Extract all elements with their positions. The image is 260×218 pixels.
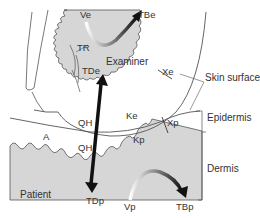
kp-label: Kp — [133, 134, 145, 145]
ke-label: Ke — [126, 110, 138, 121]
fingernail-outline — [26, 10, 48, 90]
vp-label: Vp — [124, 201, 136, 212]
finger-side-line — [32, 92, 44, 112]
skin-surface-leader — [180, 74, 204, 110]
patient-dermis-region — [10, 119, 202, 200]
qh-lower-label: QH — [78, 142, 92, 153]
a-label: A — [43, 131, 50, 142]
xp-label: Xp — [167, 117, 179, 128]
examiner-label: Examiner — [106, 56, 149, 67]
skin-surface-label: Skin surface — [205, 72, 260, 83]
dermis-label: Dermis — [207, 163, 239, 174]
tbp-label: TBp — [176, 201, 193, 212]
epidermis-label: Epidermis — [207, 112, 251, 123]
xe-label: Xe — [162, 66, 174, 77]
tr-label: TR — [77, 42, 90, 53]
tdp-label: TDp — [86, 195, 104, 206]
patient-label: Patient — [20, 189, 51, 200]
qh-upper-label: QH — [78, 117, 92, 128]
tbe-label: TBe — [138, 9, 155, 20]
skin-contact-heat-transfer-diagram: Ve TBe TR Examiner TDe Xe Skin surface K… — [0, 0, 260, 218]
tde-label: TDe — [82, 65, 100, 76]
ve-label: Ve — [80, 9, 91, 20]
